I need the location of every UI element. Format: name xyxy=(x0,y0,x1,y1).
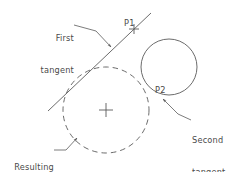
first-tangent-label: First tangent xyxy=(16,12,74,96)
resulting-circle-leader xyxy=(54,138,77,150)
resulting-circle-center-marker xyxy=(99,103,113,117)
first-tangent-label-line1: First xyxy=(16,33,74,44)
resulting-circle-label-line1: Resulting xyxy=(4,162,54,172)
point-2-label: P2 xyxy=(155,85,166,96)
first-tangent-leader xyxy=(74,25,111,47)
second-tangent-label-line2: tangent xyxy=(192,167,225,173)
second-tangent-label: Second tangent xyxy=(192,114,225,172)
figure-canvas: First tangent P1 P2 Second tangent Resul… xyxy=(0,0,242,172)
second-tangent-leader xyxy=(163,99,191,120)
resulting-circle-label: Resulting circle xyxy=(4,141,54,172)
second-circle xyxy=(141,39,197,95)
first-tangent-label-line2: tangent xyxy=(16,65,74,76)
second-tangent-label-line1: Second xyxy=(192,135,225,146)
point-1-label: P1 xyxy=(124,18,135,29)
